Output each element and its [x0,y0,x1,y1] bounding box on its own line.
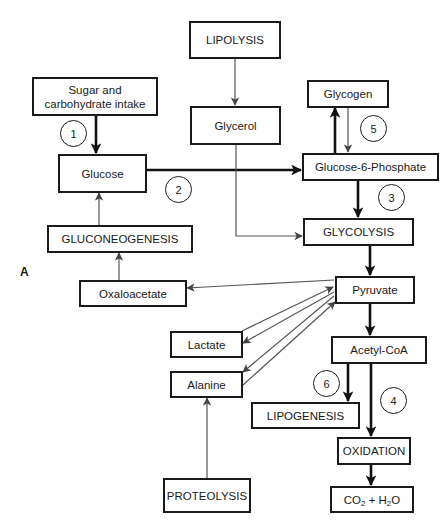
step-marker-3: 3 [378,184,405,211]
step-marker-1: 1 [60,120,87,147]
node-glucose: Glucose [58,154,147,193]
step-marker-6: 6 [313,370,340,397]
node-glucose-6-phosphate: Glucose-6-Phosphate [302,153,439,181]
node-lipogenesis: LIPOGENESIS [251,402,360,429]
node-sugar-intake: Sugar and carbohydrate intake [32,77,158,116]
node-glycolysis: GLYCOLYSIS [303,218,414,246]
arrow-glycerol-to-glycolysis [236,144,302,236]
node-gluconeogenesis: GLUCONEOGENESIS [47,225,193,253]
panel-label: A [20,265,29,279]
arrow-pyruvate-to-lactate [243,292,334,343]
node-pyruvate: Pyruvate [335,276,415,304]
arrow-pyruvate-to-oxaloacetate [187,280,334,288]
node-glycerol: Glycerol [190,106,281,145]
co2-h2o-label: CO2 + H2O [344,493,401,507]
step-marker-5: 5 [360,115,387,142]
step-marker-2: 2 [165,176,192,203]
step-marker-4: 4 [380,387,407,414]
node-lactate: Lactate [170,331,243,358]
node-lipolysis: LIPOLYSIS [189,21,281,59]
node-alanine: Alanine [170,371,243,398]
node-oxidation: OXIDATION [337,437,411,465]
node-glycogen: Glycogen [307,80,389,108]
node-oxaloacetate: Oxaloacetate [79,280,187,307]
node-proteolysis: PROTEOLYSIS [163,478,251,513]
node-co2-h2o: CO2 + H2O [330,486,414,513]
node-acetyl-coa: Acetyl-CoA [331,336,427,364]
arrow-pyruvate-to-alanine [243,296,334,372]
